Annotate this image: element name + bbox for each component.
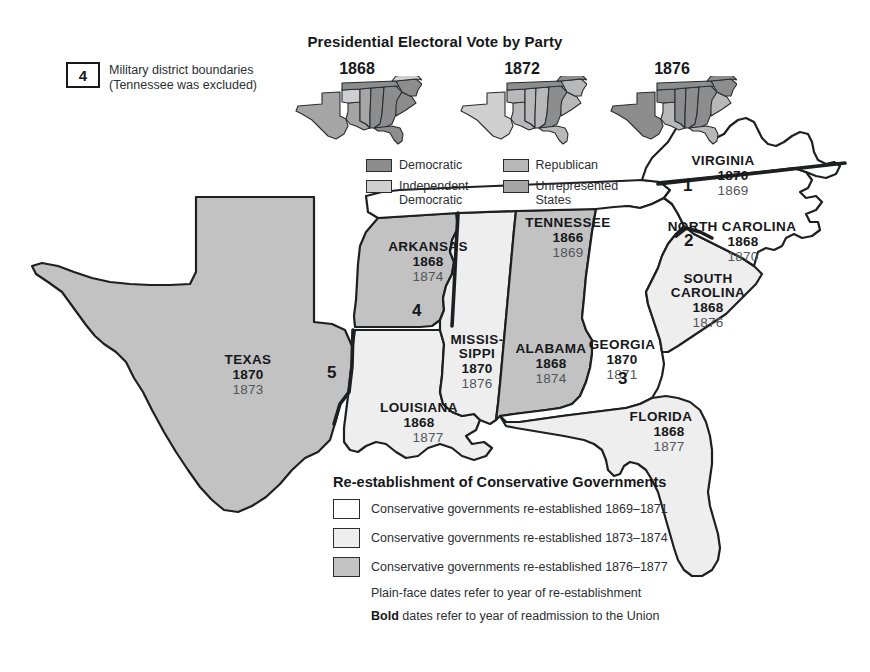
party-label-independent-democratic: Independent Democratic <box>399 179 469 208</box>
district-number-3: 3 <box>618 369 627 389</box>
conservative-swatch-1876-1877 <box>333 557 360 577</box>
conservative-legend-row-1869-1871: Conservative governments re-established … <box>333 499 729 519</box>
mini-1872-texas <box>461 92 513 139</box>
conservative-note-bold-word: Bold <box>371 609 399 623</box>
mini-1868-florida <box>374 126 403 144</box>
party-legend-item-democratic: Democratic <box>366 158 469 173</box>
conservative-text-1869-1871: Conservative governments re-established … <box>371 502 668 516</box>
conservative-text-1873-1874: Conservative governments re-established … <box>371 531 668 545</box>
conservative-legend-row-1876-1877: Conservative governments re-established … <box>333 557 729 577</box>
conservative-swatch-1873-1874 <box>333 528 360 548</box>
party-swatch-unrepresented-states <box>503 180 529 193</box>
party-label-independent-democratic-line2: Democratic <box>399 193 462 207</box>
district-number-1: 1 <box>683 176 692 196</box>
party-label-unrepresented-states-line2: States <box>536 193 571 207</box>
state-shape-arkansas[interactable] <box>354 213 458 327</box>
mini-1876-texas <box>611 92 663 139</box>
district-number-5: 5 <box>327 363 336 383</box>
conservative-swatch-1869-1871 <box>333 499 360 519</box>
state-shape-texas[interactable] <box>32 197 352 512</box>
party-label-unrepresented-states: Unrepresented States <box>536 179 619 208</box>
party-legend-item-independent-democratic: Independent Democratic <box>366 179 469 208</box>
party-label-unrepresented-states-line1: Unrepresented <box>536 179 619 193</box>
conservative-governments-legend: Re-establishment of Conservative Governm… <box>333 474 729 632</box>
mini-1868-texas <box>296 92 348 139</box>
mini-1876-arkansas <box>657 89 675 103</box>
conservative-legend-title: Re-establishment of Conservative Governm… <box>333 474 729 490</box>
mini-map-1876 <box>607 76 737 148</box>
mini-1876-florida <box>689 126 718 144</box>
electoral-map-year-1876: 1876 <box>612 60 732 78</box>
reconstruction-map-figure: 4 Military district boundaries (Tennesse… <box>0 0 870 672</box>
conservative-legend-row-1873-1874: Conservative governments re-established … <box>333 528 729 548</box>
party-label-independent-democratic-line1: Independent <box>399 179 469 193</box>
electoral-map-year-1872: 1872 <box>462 60 582 78</box>
mini-1876-mississippi <box>675 88 686 128</box>
district-number-4: 4 <box>412 301 421 321</box>
party-label-democratic: Democratic <box>399 158 462 173</box>
mini-map-1868 <box>292 76 422 148</box>
conservative-note-bold: Bold dates refer to year of readmission … <box>371 609 729 623</box>
mini-1872-florida <box>539 126 568 144</box>
party-label-republican: Republican <box>536 158 599 173</box>
party-swatch-independent-democratic <box>366 180 392 193</box>
mini-1868-arkansas <box>342 89 360 103</box>
conservative-note-plain: Plain-face dates refer to year of re-est… <box>371 586 729 600</box>
conservative-text-1876-1877: Conservative governments re-established … <box>371 560 668 574</box>
party-swatch-democratic <box>366 159 392 172</box>
conservative-note-bold-rest: dates refer to year of readmission to th… <box>399 609 660 623</box>
party-legend: Democratic Republican Independent Democr… <box>366 158 618 208</box>
party-legend-item-unrepresented-states: Unrepresented States <box>503 179 619 208</box>
electoral-map-year-1868: 1868 <box>297 60 417 78</box>
mini-1872-mississippi <box>525 88 536 128</box>
party-legend-item-republican: Republican <box>503 158 619 173</box>
mini-map-1872 <box>457 76 587 148</box>
military-district-key: 4 Military district boundaries (Tennesse… <box>66 62 257 94</box>
military-district-key-box: 4 <box>66 62 100 88</box>
military-district-key-line1: Military district boundaries <box>109 63 257 78</box>
military-district-key-text: Military district boundaries (Tennessee … <box>109 62 257 94</box>
electoral-panel-title: Presidential Electoral Vote by Party <box>0 33 870 50</box>
military-district-key-line2: (Tennessee was excluded) <box>109 78 257 93</box>
district-number-2: 2 <box>684 231 693 251</box>
mini-1868-mississippi <box>360 88 371 128</box>
party-swatch-republican <box>503 159 529 172</box>
mini-1872-arkansas <box>507 89 525 103</box>
